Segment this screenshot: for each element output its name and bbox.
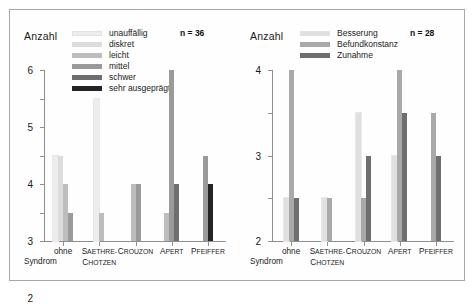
bar [136, 184, 141, 241]
y-tick-mark: 5 [40, 99, 44, 100]
x-axis-category-label: CROUZON [117, 246, 153, 276]
y-tick-mark: 4 [40, 127, 44, 128]
bar [327, 198, 332, 241]
legend-label: leicht [109, 51, 129, 60]
bar [174, 184, 179, 241]
y-tick-label: 2 [255, 236, 261, 247]
bar [436, 156, 441, 242]
chart-panel-right: Anzahl n = 28 BesserungBefundkonstanzZun… [238, 10, 466, 282]
bar-group [382, 70, 418, 241]
sample-size-label: n = 28 [410, 28, 434, 38]
y-axis-title: Anzahl [250, 30, 283, 42]
legend-item: leicht [72, 50, 170, 60]
y-tick-mark: 3 [268, 113, 272, 114]
y-tick-mark: 0 [40, 241, 44, 242]
legend-swatch-icon [300, 42, 330, 47]
legend-item: diskret [72, 39, 170, 49]
bar-group [117, 70, 153, 241]
y-tick-label: 6 [27, 65, 33, 76]
bar-group [309, 70, 345, 241]
bar-groups-right [273, 70, 454, 241]
x-axis-title: Syndrom [250, 257, 283, 266]
legend-item: Zunahme [300, 50, 398, 60]
y-tick-mark: 4 [268, 70, 272, 71]
legend-swatch-icon [300, 31, 330, 36]
legend-label: Zunahme [337, 51, 373, 60]
legend-swatch-icon [72, 53, 102, 58]
plot-area-right: 43210 [272, 70, 454, 242]
y-axis-title: Anzahl [24, 30, 57, 42]
legend-label: Besserung [337, 29, 378, 38]
bar [402, 113, 407, 241]
sample-size-label: n = 36 [180, 28, 204, 38]
bar [208, 184, 213, 241]
chart-panel-left: Anzahl n = 36 unauffälligdiskretleichtmi… [10, 10, 238, 282]
legend-label: Befundkonstanz [337, 40, 398, 49]
legend-swatch-icon [72, 31, 102, 36]
x-axis-title: Syndrom [24, 257, 57, 266]
y-tick-mark: 2 [40, 184, 44, 185]
bar-groups-left [45, 70, 226, 241]
x-axis-category-label: SAETHRE-CHOTZEN [309, 246, 345, 276]
y-tick-mark: 0 [268, 241, 272, 242]
bar-group [45, 70, 81, 241]
x-axis-labels-left: ohneSAETHRE-CHOTZENCROUZONAPERTPFEIFFER [45, 246, 226, 276]
y-tick-label: 4 [255, 65, 261, 76]
y-tick-mark: 1 [40, 213, 44, 214]
x-axis-category-label: PFEIFFER [190, 246, 226, 276]
y-tick-label: 2 [27, 293, 33, 304]
legend-item: Besserung [300, 28, 398, 38]
bar-group [81, 70, 117, 241]
legend-label: diskret [109, 40, 134, 49]
bar-group [154, 70, 190, 241]
legend-swatch-icon [72, 64, 102, 69]
bar [99, 213, 104, 242]
y-tick-mark: 6 [40, 70, 44, 71]
x-axis-labels-right: ohneSAETHRE-CHOTZENCROUZONAPERTPFEIFFER [273, 246, 454, 276]
legend-label: unauffällig [109, 29, 148, 38]
bar-group [273, 70, 309, 241]
y-tick-label: 3 [27, 236, 33, 247]
bar [366, 156, 371, 242]
y-tick-mark: 2 [268, 156, 272, 157]
figure-root: Anzahl n = 36 unauffälligdiskretleichtmi… [0, 0, 475, 304]
bar-group [418, 70, 454, 241]
plot-area-left: 6543210 [44, 70, 226, 242]
y-tick-mark: 1 [268, 198, 272, 199]
x-axis-category-label: SAETHRE-CHOTZEN [81, 246, 117, 276]
bar-group [190, 70, 226, 241]
y-tick-label: 3 [255, 150, 261, 161]
legend-item: unauffällig [72, 28, 170, 38]
legend-swatch-icon [72, 42, 102, 47]
x-axis-category-label: APERT [154, 246, 190, 276]
figure-frame: Anzahl n = 36 unauffälligdiskretleichtmi… [9, 9, 465, 281]
x-axis-category-label: CROUZON [345, 246, 381, 276]
legend-item: Befundkonstanz [300, 39, 398, 49]
y-tick-mark: 3 [40, 156, 44, 157]
y-tick-label: 5 [27, 122, 33, 133]
legend-swatch-icon [300, 53, 330, 58]
legend-right: BesserungBefundkonstanzZunahme [300, 28, 398, 61]
bar [68, 213, 73, 242]
x-axis-category-label: APERT [382, 246, 418, 276]
bar-group [345, 70, 381, 241]
x-axis-category-label: PFEIFFER [418, 246, 454, 276]
y-tick-label: 4 [27, 179, 33, 190]
bar [294, 198, 299, 241]
